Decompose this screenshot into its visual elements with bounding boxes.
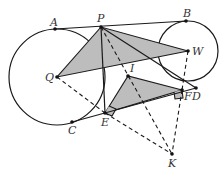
point-w: [186, 49, 190, 53]
label-p: P: [96, 12, 105, 25]
point-e: [103, 111, 107, 115]
dashed-wf: [182, 51, 188, 90]
label-a: A: [49, 16, 58, 29]
point-k: [170, 152, 174, 156]
geometry-diagram: A P B Q W I E F D C K: [0, 0, 223, 174]
label-c: C: [68, 124, 77, 137]
triangle-pqw: [57, 27, 188, 77]
dashed-fk: [172, 90, 182, 154]
label-w: W: [192, 45, 205, 58]
dashed-qe: [57, 77, 105, 113]
label-d: D: [191, 90, 201, 103]
point-q: [55, 75, 59, 79]
label-b: B: [182, 7, 191, 20]
label-q: Q: [45, 71, 54, 84]
label-i: I: [129, 62, 135, 75]
label-k: K: [167, 157, 177, 170]
tangent-ab: [55, 21, 186, 29]
label-f: F: [183, 90, 192, 103]
dashed-ek: [105, 113, 172, 154]
point-p: [99, 25, 103, 29]
label-e: E: [100, 116, 109, 129]
